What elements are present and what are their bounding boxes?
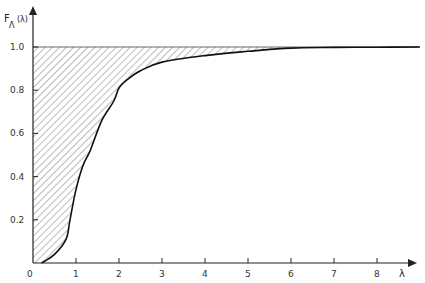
y-axis-arrow-icon (29, 6, 37, 15)
y-axis: 0.20.40.60.81.0 F Λ (λ) (4, 6, 38, 263)
x-axis-arrow-icon (408, 259, 417, 267)
x-axis: 012345678 λ (27, 258, 417, 279)
svg-text:(λ): (λ) (17, 15, 28, 24)
svg-text:Λ: Λ (9, 21, 15, 30)
y-tick-label: 0.2 (10, 215, 24, 225)
x-tick-label: 3 (159, 269, 165, 279)
y-tick-label: 0.4 (10, 172, 25, 182)
x-tick-label: 2 (116, 269, 122, 279)
x-axis-label: λ (399, 268, 405, 279)
x-tick-label: 0 (27, 269, 33, 279)
x-tick-label: 1 (73, 269, 79, 279)
x-tick-label: 5 (245, 269, 251, 279)
x-tick-label: 7 (331, 269, 337, 279)
x-tick-label: 4 (202, 269, 208, 279)
y-tick-label: 1.0 (10, 42, 25, 52)
y-tick-label: 0.6 (10, 128, 25, 138)
y-axis-label: F Λ (λ) (4, 13, 28, 30)
hatched-area (33, 47, 420, 263)
x-tick-label: 8 (374, 269, 380, 279)
x-tick-label: 6 (288, 269, 294, 279)
y-tick-label: 0.8 (10, 85, 25, 95)
cdf-chart: 012345678 λ 0.20.40.60.81.0 F Λ (λ) (0, 0, 425, 283)
